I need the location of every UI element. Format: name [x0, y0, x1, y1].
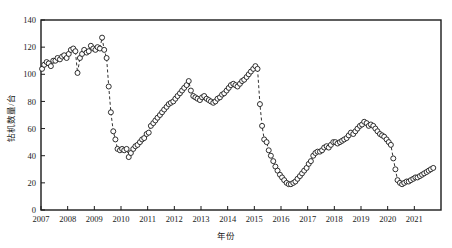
svg-text:2017: 2017: [299, 214, 316, 224]
svg-text:2020: 2020: [379, 214, 396, 224]
svg-text:2010: 2010: [113, 214, 130, 224]
svg-text:2012: 2012: [166, 214, 183, 224]
svg-text:140: 140: [23, 15, 36, 25]
svg-text:40: 40: [28, 151, 37, 161]
svg-text:120: 120: [23, 42, 36, 52]
x-axis-ticks: 2007200820092010201120122013201420152016…: [33, 206, 423, 224]
svg-text:20: 20: [28, 178, 37, 188]
svg-text:100: 100: [23, 69, 36, 79]
series-dashed-line: [42, 38, 433, 185]
y-axis-title: 钻机数量/台: [4, 78, 16, 158]
y-axis-ticks: 020406080100120140: [23, 15, 45, 215]
svg-text:2019: 2019: [353, 214, 370, 224]
svg-text:2021: 2021: [406, 214, 423, 224]
svg-text:2011: 2011: [139, 214, 156, 224]
svg-text:2007: 2007: [33, 214, 50, 224]
svg-text:2008: 2008: [59, 214, 76, 224]
svg-text:60: 60: [28, 124, 37, 134]
svg-text:2013: 2013: [193, 214, 210, 224]
svg-text:2009: 2009: [86, 214, 103, 224]
svg-text:2015: 2015: [246, 214, 263, 224]
svg-text:2014: 2014: [219, 214, 237, 224]
drilling-rig-count-chart: 020406080100120140 200720082009201020112…: [0, 0, 452, 248]
svg-text:2018: 2018: [326, 214, 343, 224]
series-data-markers: [40, 35, 436, 187]
x-axis-title: 年份: [0, 229, 452, 241]
svg-text:80: 80: [28, 97, 37, 107]
chart-figure: 020406080100120140 200720082009201020112…: [0, 0, 452, 248]
svg-text:2016: 2016: [273, 214, 290, 224]
